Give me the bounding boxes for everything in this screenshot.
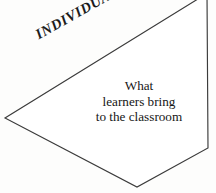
diagram-canvas: INDIVIDUAL What learners bring to the cl…: [0, 0, 216, 193]
body-text-block: What learners bring to the classroom: [78, 78, 200, 125]
body-text-line-2: learners bring: [78, 94, 200, 110]
body-text-line-1: What: [78, 78, 200, 94]
body-text-line-3: to the classroom: [78, 109, 200, 125]
